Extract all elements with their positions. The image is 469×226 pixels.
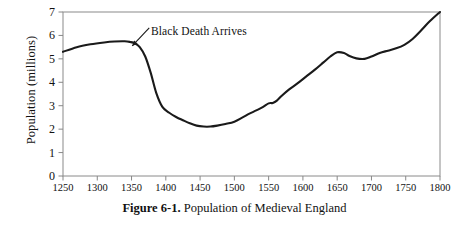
y-axis-title: Population (millions) <box>20 0 42 188</box>
y-tick-label-4: 4 <box>33 76 55 88</box>
y-tick-label-7: 7 <box>33 6 55 18</box>
x-tick-label-1800: 1800 <box>420 182 460 194</box>
y-tick-label-6: 6 <box>33 29 55 41</box>
y-tick-label-2: 2 <box>33 123 55 135</box>
y-tick-label-5: 5 <box>33 53 55 65</box>
black-death-annotation-label: Black Death Arrives <box>151 25 247 38</box>
y-tick-label-0: 0 <box>33 170 55 182</box>
figure-caption-number: Figure 6-1. <box>122 201 180 215</box>
y-tick-label-1: 1 <box>33 147 55 159</box>
figure-caption-text: Population of Medieval England <box>184 201 347 215</box>
y-axis-ticks <box>59 12 64 176</box>
x-axis-ticks <box>63 176 440 181</box>
plot-frame <box>63 12 440 176</box>
figure-container: Population (millions) 125013001350140014… <box>0 0 469 226</box>
y-tick-label-3: 3 <box>33 100 55 112</box>
figure-caption: Figure 6-1. Population of Medieval Engla… <box>0 200 469 216</box>
